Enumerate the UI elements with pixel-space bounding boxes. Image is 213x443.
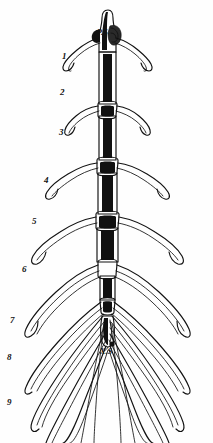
vertebral-column [96,52,119,315]
rib-label-6: 6 [22,265,27,274]
rib-label-8: 8 [7,353,12,362]
rib-label-2: 2 [60,88,65,97]
rib-label-1: 1 [62,52,67,61]
rib-label-9: 9 [7,398,12,407]
presternum-label: P.S [97,29,108,37]
rib-label-3: 3 [59,128,64,137]
rib-label-5: 5 [32,217,37,226]
anatomical-plate: .o { fill:none; stroke:#111; stroke-widt… [0,0,213,443]
rib-label-7: 7 [10,316,15,325]
rib-label-4: 4 [44,176,49,185]
xiphisternum-label: X.S [100,348,112,356]
